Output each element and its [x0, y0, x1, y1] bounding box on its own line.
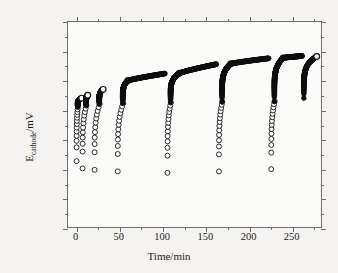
data-marker-open	[269, 136, 274, 141]
x-axis-minor-tick	[98, 227, 99, 230]
y-axis-minor-tick	[65, 126, 68, 127]
y-axis-minor-tick-right	[321, 126, 324, 127]
data-marker-open	[80, 135, 85, 140]
x-axis-minor-tick	[314, 227, 315, 230]
y-axis-minor-tick	[65, 66, 68, 67]
data-marker-endpoint	[314, 54, 320, 60]
data-marker-open	[165, 153, 170, 158]
data-marker-open	[269, 167, 274, 172]
y-axis-minor-tick	[65, 185, 68, 186]
x-axis-tick-top	[206, 17, 207, 22]
x-axis-tick-top	[250, 17, 251, 22]
y-axis-title-unit: /mV	[23, 112, 35, 132]
y-axis-tick	[63, 229, 68, 230]
data-marker-open	[80, 149, 85, 154]
data-marker-open	[92, 150, 97, 155]
x-axis-tick-top	[163, 17, 164, 22]
y-axis-minor-tick-right	[321, 37, 324, 38]
x-axis-minor-tick	[185, 227, 186, 230]
data-marker-open	[92, 167, 97, 172]
data-marker-open	[165, 134, 170, 139]
x-axis-tick-label: 50	[99, 232, 139, 243]
data-marker-filled	[214, 62, 219, 67]
chart-figure: 0−200−400−600−800−1000−1200−140005010015…	[0, 0, 338, 273]
y-axis-title: Ecathode/mV	[23, 112, 38, 162]
data-marker-open	[115, 143, 120, 148]
x-axis-tick-top	[120, 17, 121, 22]
y-axis-tick-right	[321, 52, 326, 53]
y-axis-tick	[63, 140, 68, 141]
y-axis-minor-tick-right	[321, 214, 324, 215]
y-axis-tick-right	[321, 229, 326, 230]
y-axis-tick	[63, 52, 68, 53]
plot-frame	[67, 21, 322, 228]
y-axis-tick-right	[321, 199, 326, 200]
y-axis-tick-right	[321, 22, 326, 23]
data-marker-open	[92, 130, 97, 135]
data-marker-filled	[300, 54, 305, 59]
data-marker-open	[269, 142, 274, 147]
y-axis-tick	[63, 81, 68, 82]
y-axis-minor-tick-right	[321, 96, 324, 97]
data-marker-open	[115, 152, 120, 157]
data-marker-open	[216, 152, 221, 157]
y-axis-tick-right	[321, 81, 326, 82]
data-marker-open	[216, 169, 221, 174]
data-marker-endpoint	[85, 92, 91, 98]
x-axis-minor-tick-top	[314, 19, 315, 22]
data-marker-open	[165, 170, 170, 175]
y-axis-tick-right	[321, 140, 326, 141]
data-marker-filled	[163, 71, 168, 76]
x-axis-tick-label: 150	[185, 232, 225, 243]
x-axis-minor-tick-top	[228, 19, 229, 22]
data-marker-open	[80, 166, 85, 171]
y-axis-tick	[63, 170, 68, 171]
x-axis-title: Time/min	[0, 250, 338, 262]
x-axis-minor-tick	[141, 227, 142, 230]
x-axis-minor-tick-top	[185, 19, 186, 22]
data-marker-open	[217, 138, 222, 143]
data-marker-open	[92, 142, 97, 147]
y-axis-tick-right	[321, 111, 326, 112]
data-marker-open	[165, 145, 170, 150]
plot-canvas	[68, 22, 321, 227]
x-axis-tick-top	[293, 17, 294, 22]
y-axis-minor-tick	[65, 214, 68, 215]
y-axis-minor-tick-right	[321, 155, 324, 156]
x-axis-minor-tick	[228, 227, 229, 230]
y-axis-title-sub: cathode	[29, 131, 38, 154]
data-marker-open	[115, 169, 120, 174]
y-axis-tick	[63, 111, 68, 112]
x-axis-tick-top	[77, 17, 78, 22]
data-marker-filled	[272, 99, 277, 104]
x-axis-minor-tick	[271, 227, 272, 230]
data-marker-open	[92, 135, 97, 140]
y-axis-minor-tick-right	[321, 66, 324, 67]
y-axis-minor-tick	[65, 96, 68, 97]
data-marker-filled	[266, 56, 271, 61]
data-marker-open	[165, 139, 170, 144]
x-axis-tick-label: 100	[142, 232, 182, 243]
data-marker-open	[80, 130, 85, 135]
x-axis-tick-label: 250	[272, 232, 312, 243]
x-axis-minor-tick-top	[271, 19, 272, 22]
y-axis-tick	[63, 22, 68, 23]
y-axis-tick	[63, 199, 68, 200]
data-marker-open	[74, 159, 79, 164]
y-axis-minor-tick	[65, 37, 68, 38]
data-marker-open	[74, 138, 79, 143]
data-marker-open	[80, 141, 85, 146]
data-marker-open	[115, 137, 120, 142]
x-axis-tick-label: 0	[56, 232, 96, 243]
data-marker-open	[217, 133, 222, 138]
y-axis-minor-tick-right	[321, 185, 324, 186]
data-marker-open	[216, 144, 221, 149]
data-marker-endpoint	[100, 86, 106, 92]
data-marker-open	[269, 150, 274, 155]
data-marker-open	[74, 145, 79, 150]
x-axis-minor-tick-top	[141, 19, 142, 22]
y-axis-tick-right	[321, 170, 326, 171]
data-marker-open	[116, 132, 121, 137]
y-axis-title-main: E	[23, 155, 35, 162]
x-axis-minor-tick-top	[98, 19, 99, 22]
